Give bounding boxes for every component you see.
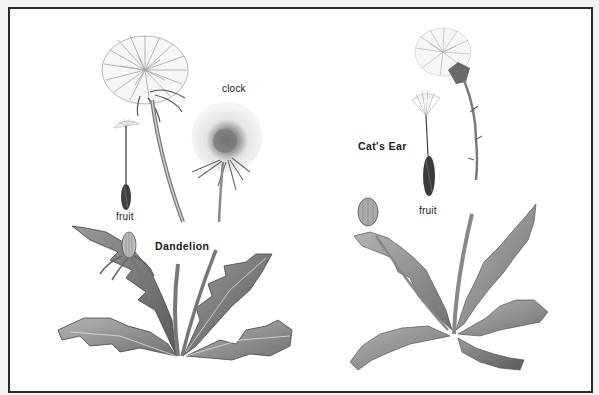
dandelion-fruit: [114, 118, 139, 210]
dandelion-flower-head: [102, 36, 188, 122]
dandelion-fruit-label: fruit: [116, 211, 134, 222]
dandelion-illustration: [58, 36, 292, 360]
cats-ear-flower-head: [415, 28, 482, 180]
dandelion-clock-seed-head: [192, 102, 262, 222]
cats-ear-illustration: [350, 28, 548, 370]
cats-ear-fruit-label: fruit: [419, 205, 437, 216]
dandelion-label: Dandelion: [155, 241, 209, 252]
botanical-illustration: [0, 0, 599, 395]
clock-label: clock: [222, 83, 246, 94]
dandelion-stem: [152, 100, 183, 222]
cats-ear-fruit: [412, 90, 440, 196]
cats-ear-flower-bud: [358, 198, 378, 226]
cats-ear-label: Cat's Ear: [358, 141, 407, 152]
cats-ear-leaf-rosette: [350, 204, 548, 370]
